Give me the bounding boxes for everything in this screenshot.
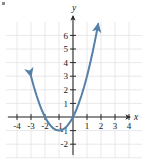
y-tick-label: 3 bbox=[64, 71, 69, 81]
x-tick-label: 3 bbox=[113, 121, 118, 131]
y-tick-label: 1 bbox=[64, 99, 69, 109]
x-tick-label: 1 bbox=[85, 121, 90, 131]
y-tick-label: 6 bbox=[64, 31, 69, 41]
x-tick-label: 2 bbox=[99, 121, 104, 131]
graph-figure: -4-3-2-11234654321-1-2xy bbox=[0, 0, 148, 164]
coordinate-plane: -4-3-2-11234654321-1-2xy bbox=[0, 0, 148, 164]
y-tick-label: -2 bbox=[61, 139, 69, 149]
y-tick-label: 5 bbox=[64, 44, 69, 54]
y-tick-label: 4 bbox=[64, 58, 69, 68]
axes bbox=[8, 16, 130, 155]
x-tick-label: 4 bbox=[127, 121, 132, 131]
x-tick-label: -4 bbox=[13, 121, 21, 131]
y-axis-label: y bbox=[71, 3, 77, 13]
y-tick-label: 2 bbox=[64, 85, 69, 95]
x-tick-label: -3 bbox=[27, 121, 35, 131]
x-axis-label: x bbox=[133, 112, 139, 122]
